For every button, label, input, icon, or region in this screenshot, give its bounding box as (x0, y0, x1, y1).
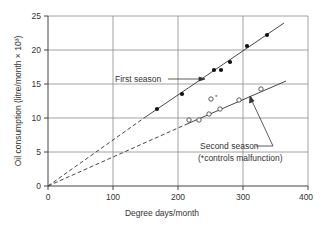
data-point (265, 33, 269, 37)
data-point (218, 107, 222, 111)
data-point (180, 92, 184, 96)
data-point (207, 112, 211, 116)
y-tick-10: 10 (32, 113, 42, 123)
data-point (187, 118, 191, 122)
first-season-label: First season (115, 74, 162, 84)
x-tick-labels: 0 100 200 300 400 (46, 192, 314, 202)
data-point (212, 68, 216, 72)
y-axis-title: Oil consumption (litre/month × 10³) (13, 36, 23, 167)
second-season-label: Second season (200, 141, 259, 151)
data-point (197, 118, 201, 122)
first-season-arrow (168, 77, 205, 81)
oil-consumption-chart: 0 5 10 15 20 25 0 100 200 300 400 Degree… (0, 0, 328, 229)
x-tick-0: 0 (46, 192, 51, 202)
x-axis-title: Degree days/month (125, 208, 199, 218)
data-point-malfunction (209, 97, 213, 101)
y-tick-5: 5 (36, 147, 41, 157)
x-tick-200: 200 (171, 192, 185, 202)
x-tick-400: 400 (299, 192, 313, 202)
x-tick-100: 100 (106, 192, 120, 202)
data-point (237, 98, 241, 102)
data-point (259, 87, 263, 91)
y-tick-15: 15 (32, 79, 42, 89)
x-tick-300: 300 (236, 192, 250, 202)
data-point (228, 60, 232, 64)
malfunction-note: (*controls malfunction) (198, 153, 283, 163)
y-tick-20: 20 (32, 45, 42, 55)
y-tick-0: 0 (36, 181, 41, 191)
asterisk-marker: * (215, 94, 218, 100)
axes (44, 16, 308, 190)
second-season-points (187, 87, 263, 122)
data-point (245, 44, 249, 48)
y-tick-25: 25 (32, 11, 42, 21)
data-point (155, 107, 159, 111)
y-tick-labels: 0 5 10 15 20 25 (32, 11, 42, 191)
data-point (219, 68, 223, 72)
second-season-arrow (250, 96, 274, 146)
